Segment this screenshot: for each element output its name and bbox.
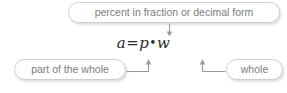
equation-term-w: w — [157, 34, 170, 52]
callout-whole-label: whole — [241, 64, 268, 75]
callout-percent: percent in fraction or decimal form — [68, 2, 280, 23]
equation: a=p•w — [0, 36, 287, 51]
callout-part-of-the-whole: part of the whole — [14, 59, 126, 80]
callout-part-label: part of the whole — [31, 64, 109, 75]
equation-operator-equals: = — [126, 34, 139, 52]
callout-percent-label: percent in fraction or decimal form — [95, 7, 254, 18]
equation-term-p: p — [139, 34, 149, 52]
connector-whole-to-w-icon — [200, 59, 226, 71]
equation-term-a: a — [117, 34, 126, 52]
connector-part-to-a-icon — [127, 59, 152, 71]
equation-callout-diagram: percent in fraction or decimal form a=p•… — [0, 0, 287, 93]
equation-operator-multiply: • — [149, 36, 157, 50]
callout-whole: whole — [226, 59, 283, 80]
